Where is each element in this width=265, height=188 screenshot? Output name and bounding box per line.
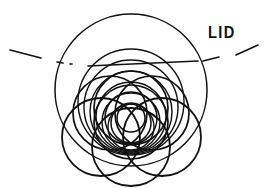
lid-label: LID [208,24,236,41]
centerline-segment-2 [57,62,63,63]
figure-canvas: LID [0,0,265,188]
